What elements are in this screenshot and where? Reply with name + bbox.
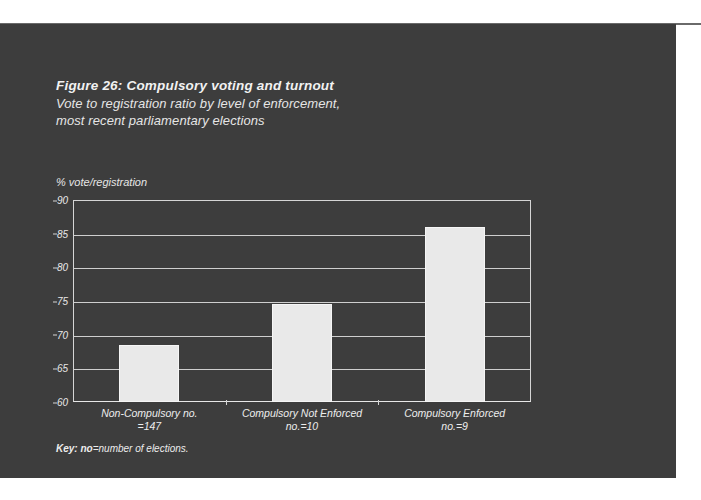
- subtitle-line-2: most recent parliamentary elections: [56, 113, 265, 128]
- y-axis-tick-mark: [53, 335, 57, 336]
- y-axis-tick-mark: [53, 200, 57, 201]
- figure-page: Figure 26: Compulsory voting and turnout…: [0, 0, 701, 500]
- x-axis-ticks: [73, 400, 531, 406]
- y-axis-tick-mark: [53, 267, 57, 268]
- y-axis-tick-mark: [53, 368, 57, 369]
- key-definition: =number of elections.: [93, 443, 189, 454]
- figure-title: Figure 26: Compulsory voting and turnout: [56, 78, 576, 93]
- figure-panel: Figure 26: Compulsory voting and turnout…: [0, 24, 676, 478]
- y-axis-tick-label: 90: [57, 195, 68, 206]
- x-axis-category-line: Compulsory Not Enforced: [242, 407, 362, 419]
- x-axis-tick-mark: [226, 400, 227, 405]
- x-axis-category-line: no.=10: [286, 420, 318, 432]
- y-axis-tick-label: 80: [57, 262, 68, 273]
- key-label: Key:: [56, 443, 78, 454]
- x-axis-category-line: Compulsory Enforced: [404, 407, 505, 419]
- y-axis-tick-label: 75: [57, 296, 68, 307]
- bar: [272, 304, 332, 402]
- key-term: no: [80, 443, 92, 454]
- y-axis-tick-label: 60: [57, 397, 68, 408]
- figure-key: Key: no=number of elections.: [56, 443, 189, 454]
- subtitle-line-1: Vote to registration ratio by level of e…: [56, 96, 340, 111]
- y-axis-tick-mark: [53, 402, 57, 403]
- x-axis-category-label: Non-Compulsory no.=147: [64, 407, 234, 433]
- x-axis-category-label: Compulsory Not Enforcedno.=10: [217, 407, 387, 433]
- y-axis-ticks: 60657075808590: [46, 200, 68, 402]
- x-axis-tick-mark: [378, 400, 379, 405]
- y-axis-label: % vote/registration: [56, 176, 147, 188]
- x-axis-category-line: no.=9: [441, 420, 468, 432]
- figure-subtitle: Vote to registration ratio by level of e…: [56, 95, 486, 129]
- y-axis-tick-label: 85: [57, 228, 68, 239]
- x-axis-labels: Non-Compulsory no.=147Compulsory Not Enf…: [73, 407, 531, 447]
- bar: [425, 227, 485, 402]
- x-axis-category-line: Non-Compulsory no.: [101, 407, 197, 419]
- y-axis-tick-mark: [53, 234, 57, 235]
- bar: [119, 345, 179, 402]
- y-axis-tick-label: 65: [57, 363, 68, 374]
- bar-series: [73, 200, 531, 402]
- x-axis-category-label: Compulsory Enforcedno.=9: [370, 407, 540, 433]
- y-axis-tick-label: 70: [57, 329, 68, 340]
- x-axis-category-line: =147: [138, 420, 162, 432]
- y-axis-tick-mark: [53, 301, 57, 302]
